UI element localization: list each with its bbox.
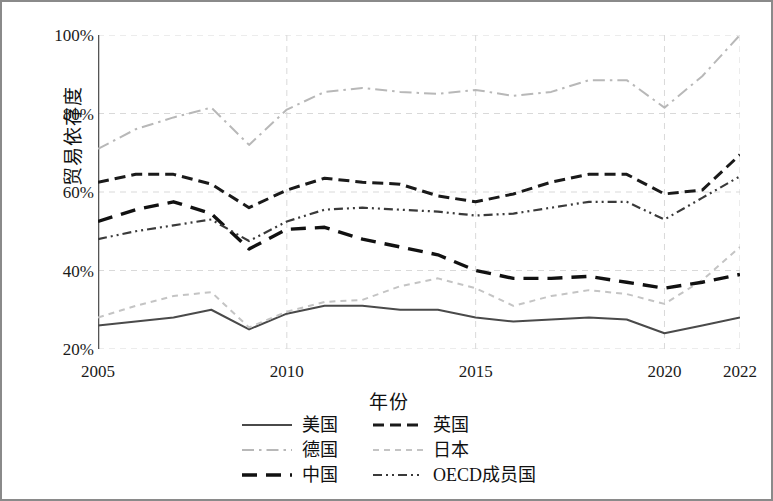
- y-tick-label: 100%: [34, 27, 94, 44]
- y-tick-label: 40%: [34, 262, 94, 279]
- series-line-4: [98, 202, 740, 288]
- series-line-3: [98, 247, 740, 327]
- legend-line-swatch-icon: [372, 468, 424, 482]
- y-axis-title: 贸易依存度: [58, 61, 85, 211]
- chart-figure: 100%80%60%40%20% 20052010201520202022 贸易…: [0, 0, 773, 501]
- legend-label: 德国: [302, 441, 338, 459]
- legend-label: 日本: [433, 441, 469, 459]
- x-tick-label: 2020: [647, 362, 681, 382]
- chart-canvas: [98, 35, 740, 349]
- x-tick-label: 2022: [723, 362, 757, 382]
- chart-legend: 美国英国德国日本中国OECD成员国: [2, 416, 773, 484]
- legend-line-swatch-icon: [372, 418, 424, 432]
- plot-area: [98, 35, 740, 349]
- legend-label: 美国: [302, 416, 338, 434]
- legend-line-swatch-icon: [241, 418, 293, 432]
- y-tick-label: 20%: [34, 341, 94, 358]
- legend-line-swatch-icon: [241, 468, 293, 482]
- series-line-1: [98, 155, 740, 208]
- legend-item[interactable]: 日本: [372, 441, 536, 459]
- legend-line-swatch-icon: [241, 443, 293, 457]
- x-axis-title: 年份: [2, 387, 773, 414]
- legend-item[interactable]: 德国: [241, 441, 338, 459]
- legend-item[interactable]: 美国: [241, 416, 338, 434]
- x-tick-label: 2010: [270, 362, 304, 382]
- legend-label: OECD成员国: [433, 466, 536, 484]
- legend-item[interactable]: OECD成员国: [372, 466, 536, 484]
- x-tick-label: 2005: [81, 362, 115, 382]
- series-line-0: [98, 306, 740, 333]
- legend-label: 英国: [433, 416, 469, 434]
- x-tick-label: 2015: [459, 362, 493, 382]
- legend-item[interactable]: 英国: [372, 416, 536, 434]
- series-line-2: [98, 35, 740, 149]
- legend-label: 中国: [302, 466, 338, 484]
- series-group: [98, 35, 740, 333]
- legend-grid: 美国英国德国日本中国OECD成员国: [241, 416, 536, 484]
- legend-line-swatch-icon: [372, 443, 424, 457]
- x-axis-tick-labels: 20052010201520202022: [2, 362, 773, 388]
- legend-item[interactable]: 中国: [241, 466, 338, 484]
- gridlines: [98, 35, 740, 349]
